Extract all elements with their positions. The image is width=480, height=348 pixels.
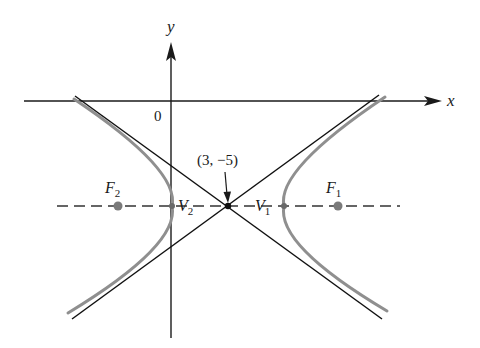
focus-f2-letter: F: [104, 179, 115, 196]
origin-label: 0: [154, 108, 162, 124]
center-point: [225, 203, 231, 209]
vertex-v1-subscript: 1: [265, 205, 271, 217]
focus-f2-label: F2: [104, 179, 120, 199]
y-axis: y: [165, 17, 176, 338]
focus-f1-point: [334, 202, 343, 211]
focus-f1-subscript: 1: [336, 187, 342, 199]
focus-f2-subscript: 2: [115, 187, 121, 199]
center-pointer-line: [225, 172, 227, 195]
vertex-v2-subscript: 2: [188, 205, 194, 217]
focus-f2-point: [114, 202, 123, 211]
vertex-v1-point: [281, 203, 287, 209]
center-label: (3, −5): [197, 152, 238, 169]
focus-f1-letter: F: [325, 179, 336, 196]
focus-f1-label: F1: [325, 179, 341, 199]
hyperbola-diagram: x y 0 (3, −5) F2 V2 V1 F1: [0, 0, 480, 348]
vertex-v2-label: V2: [178, 197, 193, 217]
x-axis-label: x: [446, 91, 455, 110]
x-axis: x: [24, 91, 455, 110]
center-arrow-icon: [224, 192, 232, 204]
y-axis-label: y: [165, 17, 175, 36]
vertex-v2-point: [169, 203, 175, 209]
vertex-v1-label: V1: [255, 197, 270, 217]
